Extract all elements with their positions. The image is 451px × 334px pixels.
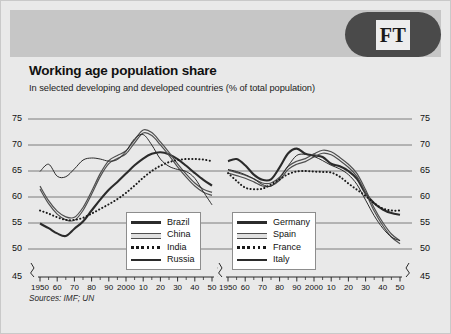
series-line-india (40, 159, 212, 220)
y-tick-label: 75 (6, 113, 22, 123)
y-tick-label: 55 (6, 217, 22, 227)
legend-label: Italy (273, 255, 290, 264)
legend-label: India (167, 243, 187, 252)
y-tick-label: 45 (6, 271, 22, 281)
y-tick-label: 50 (420, 243, 436, 253)
y-tick-label: 75 (420, 113, 436, 123)
legend-swatch-china (131, 230, 161, 240)
y-tick-label: 65 (6, 165, 22, 175)
legend-label: Brazil (167, 218, 190, 227)
legend-swatch-spain (237, 230, 267, 240)
x-tick-label: 50 (386, 283, 414, 292)
y-tick-label: 70 (420, 139, 436, 149)
y-tick-label: 60 (420, 191, 436, 201)
legend-swatch-india (131, 242, 161, 252)
chart-page: FT Working age population share In selec… (0, 0, 451, 334)
legend-item-china: China (131, 229, 195, 242)
legend-item-france: France (237, 241, 310, 254)
legend-label: France (273, 243, 301, 252)
legend-swatch-france (237, 242, 267, 252)
ft-logo: FT (345, 12, 441, 57)
legend-swatch-brazil (131, 217, 161, 227)
legend-label: China (167, 230, 191, 239)
y-tick-label: 50 (6, 243, 22, 253)
legend-item-russia: Russia (131, 254, 195, 267)
legend-developed: GermanySpainFranceItaly (232, 212, 316, 270)
legend-item-spain: Spain (237, 229, 310, 242)
y-tick-label: 70 (6, 139, 22, 149)
legend-label: Russia (167, 255, 195, 264)
legend-label: Germany (273, 218, 310, 227)
y-tick-label: 60 (6, 191, 22, 201)
page-subtitle: In selected developing and developed cou… (29, 83, 315, 93)
y-tick-label: 55 (420, 217, 436, 227)
legend-swatch-germany (237, 217, 267, 227)
legend-swatch-russia (131, 255, 161, 265)
legend-item-germany: Germany (237, 216, 310, 229)
legend-label: Spain (273, 230, 296, 239)
y-tick-label: 65 (420, 165, 436, 175)
legend-developing: BrazilChinaIndiaRussia (126, 212, 201, 270)
series-line-france (228, 171, 400, 211)
legend-item-india: India (131, 241, 195, 254)
ft-logo-box: FT (376, 20, 410, 50)
legend-item-italy: Italy (237, 254, 310, 267)
ft-logo-text: FT (380, 25, 407, 45)
legend-swatch-italy (237, 255, 267, 265)
source-note: Sources: IMF; UN (29, 294, 94, 303)
legend-item-brazil: Brazil (131, 216, 195, 229)
page-title: Working age population share (29, 63, 217, 78)
y-tick-label: 45 (420, 271, 436, 281)
